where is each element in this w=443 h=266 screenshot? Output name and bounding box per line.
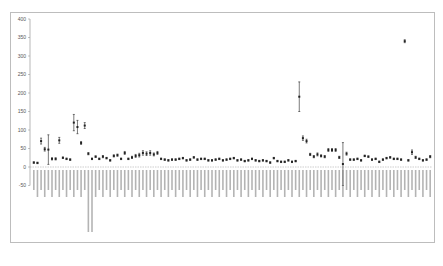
- x-tick-label: [44, 170, 46, 197]
- data-point: [298, 82, 300, 112]
- data-point: [400, 159, 402, 161]
- data-point: [91, 158, 93, 160]
- x-tick-label: [400, 170, 402, 197]
- x-tick-label: [95, 170, 97, 197]
- x-tick-label: [211, 170, 213, 197]
- data-point: [95, 156, 97, 158]
- x-tick-label: [197, 170, 199, 197]
- data-point: [353, 159, 355, 161]
- x-tick-label: [204, 170, 206, 197]
- x-tick-label: [262, 170, 264, 197]
- x-tick-label: [298, 170, 300, 197]
- x-tick-label: [109, 170, 111, 197]
- data-point: [207, 159, 209, 161]
- data-point: [189, 159, 191, 161]
- x-tick-label: [106, 170, 108, 190]
- x-tick-label: [408, 170, 410, 197]
- data-point: [102, 156, 104, 158]
- y-tick-label: 400: [18, 16, 27, 22]
- x-tick-label: [168, 170, 170, 197]
- data-point: [302, 136, 304, 140]
- x-tick-label: [277, 170, 279, 197]
- x-tick-label: [378, 170, 380, 197]
- data-point: [247, 159, 249, 161]
- data-point: [280, 161, 282, 163]
- data-point: [356, 158, 358, 160]
- x-tick-label: [338, 170, 340, 190]
- y-tick-label: 350: [18, 34, 27, 40]
- data-point: [40, 138, 42, 144]
- x-tick-label: [273, 170, 275, 190]
- x-tick-label: [178, 170, 180, 190]
- x-tick-label: [215, 170, 217, 190]
- x-tick-label: [335, 170, 337, 197]
- x-tick-label: [58, 170, 60, 197]
- x-tick-label: [324, 170, 326, 190]
- data-point: [160, 158, 162, 160]
- data-point: [422, 159, 424, 161]
- x-tick-label: [288, 170, 290, 190]
- x-tick-label: [186, 170, 188, 190]
- data-point: [236, 159, 238, 161]
- data-point: [51, 158, 53, 160]
- data-point: [378, 161, 380, 163]
- x-tick-label: [88, 170, 90, 232]
- data-point: [222, 159, 224, 161]
- data-point: [295, 160, 297, 162]
- x-tick-label: [371, 170, 373, 197]
- x-tick-label: [233, 170, 235, 197]
- y-tick-label: 0: [23, 164, 26, 170]
- data-point: [375, 158, 377, 160]
- x-tick-label: [295, 170, 297, 190]
- data-point: [367, 156, 369, 158]
- data-point: [120, 158, 122, 160]
- x-tick-label: [375, 170, 377, 190]
- x-tick-label: [309, 170, 311, 190]
- x-tick-label: [153, 170, 155, 197]
- data-point: [135, 154, 137, 157]
- x-tick-label: [280, 170, 282, 190]
- data-point: [407, 159, 409, 161]
- x-tick-label: [397, 170, 399, 190]
- x-tick-label: [258, 170, 260, 190]
- x-tick-label: [182, 170, 184, 197]
- x-tick-label: [62, 170, 64, 190]
- error-bar-chart: 400350300250200150100500-50: [0, 0, 443, 266]
- y-tick-label: 200: [18, 90, 27, 96]
- x-tick-label: [404, 170, 406, 190]
- data-point: [276, 160, 278, 162]
- data-point: [127, 158, 129, 160]
- x-tick-label: [313, 170, 315, 197]
- data-point: [244, 160, 246, 162]
- x-tick-label: [248, 170, 250, 197]
- data-point: [106, 157, 108, 159]
- x-tick-label: [255, 170, 257, 197]
- data-point: [240, 159, 242, 161]
- data-point: [131, 156, 133, 158]
- data-point: [415, 156, 417, 158]
- x-tick-label: [284, 170, 286, 197]
- x-tick-label: [360, 170, 362, 190]
- x-tick-label: [364, 170, 366, 197]
- data-point: [36, 162, 38, 164]
- x-tick-label: [160, 170, 162, 197]
- x-tick-label: [164, 170, 166, 190]
- x-tick-label: [349, 170, 351, 197]
- data-point: [80, 141, 82, 144]
- data-point: [291, 161, 293, 163]
- x-tick-label: [120, 170, 122, 190]
- x-tick-label: [77, 170, 79, 190]
- data-point: [229, 158, 231, 160]
- data-point: [44, 147, 46, 151]
- data-point: [186, 159, 188, 161]
- x-tick-label: [237, 170, 239, 190]
- x-tick-label: [346, 170, 348, 190]
- data-point: [327, 149, 329, 152]
- data-point: [167, 159, 169, 161]
- y-tick-label: 300: [18, 53, 27, 59]
- data-point: [178, 158, 180, 160]
- data-point: [142, 151, 144, 155]
- x-tick-label: [128, 170, 130, 190]
- data-point: [404, 40, 406, 43]
- data-point: [251, 158, 253, 160]
